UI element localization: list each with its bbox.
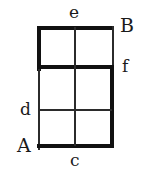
vertex-label-d: d [20, 101, 31, 118]
outer-right-edge-upper [112, 26, 114, 69]
column-divider [74, 27, 76, 146]
grid-figure: e B f d A c [0, 0, 151, 174]
vertex-label-B: B [120, 16, 134, 35]
vertex-label-f: f [122, 58, 128, 75]
outer-right-edge-lower [110, 67, 114, 148]
vertex-label-e: e [69, 4, 79, 21]
vertex-label-A: A [17, 136, 31, 155]
vertex-label-c: c [70, 152, 80, 169]
